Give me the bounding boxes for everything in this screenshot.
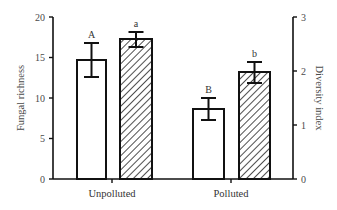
significance-letter-A: A [88,29,96,40]
left-tick-5: 5 [40,133,45,144]
left-tick-0: 0 [40,174,45,185]
significance-letter-a: a [134,18,139,29]
bar-polluted-diversity: b [239,48,270,179]
category-label-polluted: Polluted [213,188,249,199]
right-axis-title: Diversity index [314,65,325,131]
x-axis: Unpolluted Polluted [53,179,293,199]
bar-polluted-richness: B [193,84,224,179]
category-label-unpolluted: Unpolluted [88,188,136,199]
bar-chart: 20 15 10 5 0 Fungal richness 3 2 1 0 Div… [0,0,337,210]
right-tick-0: 0 [301,174,306,185]
left-axis: 20 15 10 5 0 Fungal richness [15,12,53,185]
significance-letter-B: B [205,84,212,95]
right-axis: 3 2 1 0 Diversity index [293,12,325,185]
right-tick-3: 3 [301,12,306,23]
right-tick-1: 1 [301,120,306,131]
left-tick-10: 10 [35,93,45,104]
left-axis-title: Fungal richness [15,65,26,131]
significance-letter-b: b [252,48,257,59]
bar-unpolluted-richness: A [77,29,106,179]
right-tick-2: 2 [301,66,306,77]
bar-unpolluted-diversity: a [120,18,152,179]
left-tick-20: 20 [35,12,45,23]
left-tick-15: 15 [35,52,45,63]
